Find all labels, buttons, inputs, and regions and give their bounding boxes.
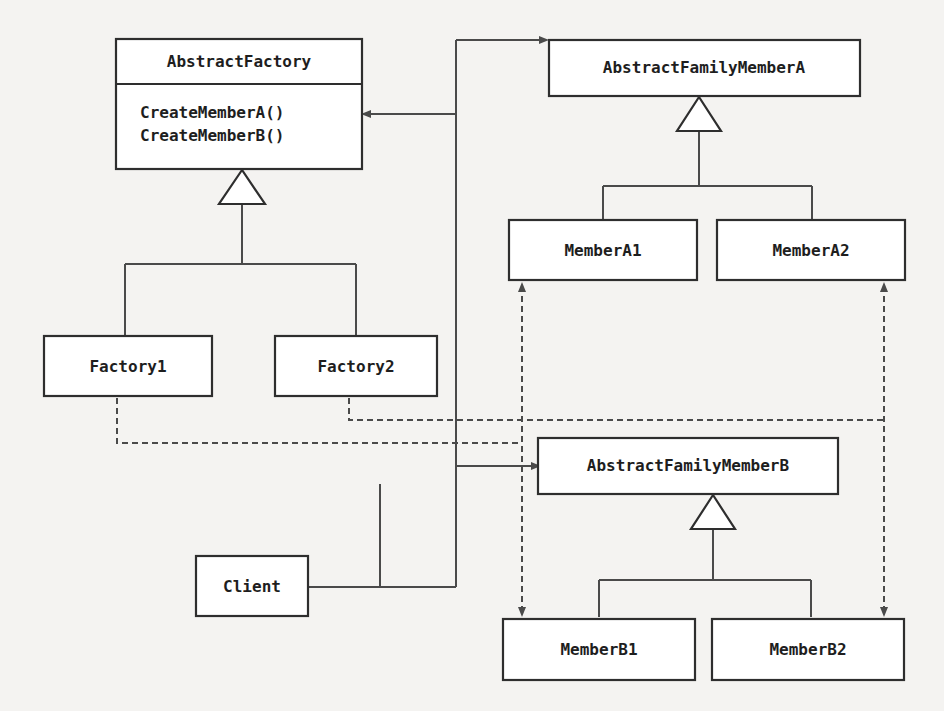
class-member-a2[interactable]: MemberA2 <box>717 220 905 280</box>
class-abstract-family-member-b[interactable]: AbstractFamilyMemberB <box>538 438 838 494</box>
class-name-factory2: Factory2 <box>317 357 394 376</box>
arrowhead-membera <box>539 36 549 44</box>
dep-line-factory2 <box>349 398 884 420</box>
generalization-triangle-membera <box>677 97 721 131</box>
class-name-factory1: Factory1 <box>89 357 166 376</box>
dep-arrow-membera1 <box>518 282 526 292</box>
class-name-client: Client <box>223 577 281 596</box>
generalization-triangle-memberb <box>691 495 735 529</box>
class-name-member-b2: MemberB2 <box>769 640 846 659</box>
method-create-member-b: CreateMemberB() <box>140 126 285 145</box>
class-client[interactable]: Client <box>196 556 308 616</box>
class-abstract-factory[interactable]: AbstractFactory CreateMemberA() CreateMe… <box>116 39 362 169</box>
dep-arrow-memberb2 <box>880 607 888 617</box>
class-name-member-b1: MemberB1 <box>560 640 637 659</box>
class-factory1[interactable]: Factory1 <box>44 336 212 396</box>
class-factory2[interactable]: Factory2 <box>275 336 437 396</box>
generalization-triangle-factory <box>219 170 265 204</box>
class-name-member-a1: MemberA1 <box>564 241 641 260</box>
uml-diagram: AbstractFactory CreateMemberA() CreateMe… <box>0 0 944 711</box>
class-name-member-a2: MemberA2 <box>772 241 849 260</box>
dep-arrow-memberb1 <box>518 607 526 617</box>
class-abstract-family-member-a[interactable]: AbstractFamilyMemberA <box>549 40 860 96</box>
class-name-abstract-factory: AbstractFactory <box>167 52 312 71</box>
class-name-abstract-family-member-a: AbstractFamilyMemberA <box>603 58 806 77</box>
dep-arrow-membera2 <box>880 282 888 292</box>
class-member-b1[interactable]: MemberB1 <box>503 619 695 680</box>
class-name-abstract-family-member-b: AbstractFamilyMemberB <box>587 456 790 475</box>
method-create-member-a: CreateMemberA() <box>140 103 285 122</box>
class-member-b2[interactable]: MemberB2 <box>712 619 904 680</box>
class-member-a1[interactable]: MemberA1 <box>509 220 697 280</box>
